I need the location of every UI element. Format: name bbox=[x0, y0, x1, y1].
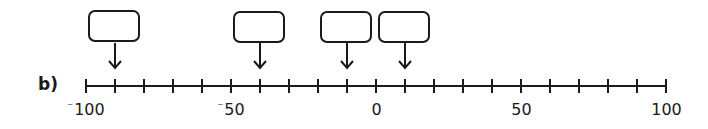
tick-label-minus-100: ⁻100 bbox=[67, 98, 104, 119]
tick-label-100: 100 bbox=[650, 98, 682, 119]
tick-label-minus-50: ⁻50 bbox=[217, 98, 244, 119]
answer-box-3[interactable] bbox=[320, 11, 372, 43]
answer-box-2[interactable] bbox=[233, 11, 285, 43]
tick-label-50: 50 bbox=[510, 98, 531, 119]
tick-label-0: 0 bbox=[370, 98, 381, 119]
answer-box-4[interactable] bbox=[378, 11, 430, 43]
answer-box-1[interactable] bbox=[88, 10, 140, 42]
